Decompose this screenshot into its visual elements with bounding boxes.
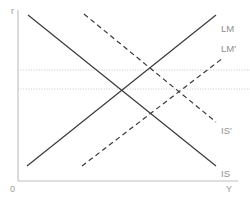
plot-canvas bbox=[0, 0, 250, 205]
lm-prime-curve bbox=[82, 58, 223, 166]
origin-label: 0 bbox=[10, 185, 15, 194]
lm-curve-label: LM bbox=[221, 24, 234, 34]
is-prime-curve-label: IS' bbox=[221, 126, 232, 136]
y-axis-label: r bbox=[11, 7, 14, 16]
x-axis-label: Y bbox=[226, 185, 232, 194]
is-lm-figure: r 0 Y LM LM' IS' IS bbox=[0, 0, 250, 205]
lm-prime-curve-label: LM' bbox=[221, 44, 236, 54]
is-curve-label: IS bbox=[221, 169, 230, 179]
